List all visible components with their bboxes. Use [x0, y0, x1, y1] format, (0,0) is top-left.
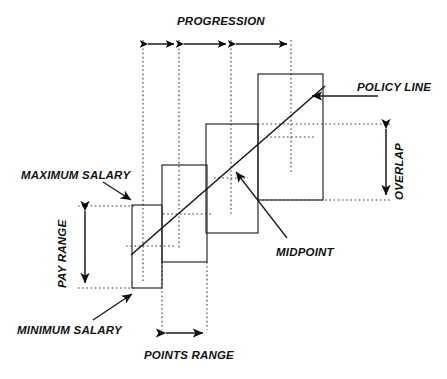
minimum-salary-label: MINIMUM SALARY — [17, 324, 123, 336]
pay-range-label: PAY RANGE — [56, 220, 68, 288]
pay-structure-diagram: PROGRESSION POLICY LINE OVERLAP MAXIMUM … — [0, 0, 447, 379]
points-range-label: POINTS RANGE — [144, 349, 234, 361]
pay-range-reference-lines — [78, 206, 136, 288]
progression-label: PROGRESSION — [177, 15, 265, 27]
maximum-salary-leader — [103, 182, 131, 200]
midpoint-markers — [126, 137, 316, 246]
diagram-canvas: PROGRESSION POLICY LINE OVERLAP MAXIMUM … — [0, 0, 447, 379]
policy-line-label: POLICY LINE — [357, 81, 431, 93]
policy-line-stroke — [131, 86, 325, 255]
overlap-reference-lines — [258, 124, 392, 200]
midpoint-label: MIDPOINT — [276, 246, 335, 258]
midpoint-leader — [236, 172, 287, 238]
minimum-salary-leader — [93, 294, 132, 320]
overlap-label: OVERLAP — [393, 143, 405, 200]
points-range-guide-lines — [162, 262, 207, 330]
maximum-salary-label: MAXIMUM SALARY — [21, 169, 131, 181]
